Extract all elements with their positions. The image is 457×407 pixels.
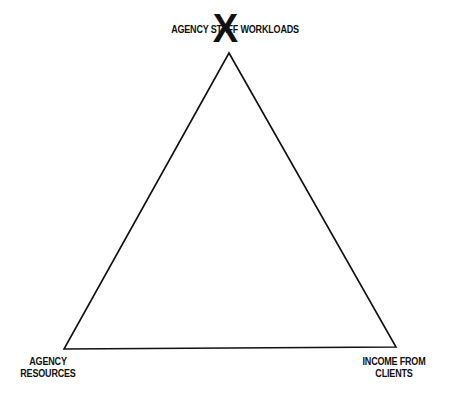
triangle-outline <box>64 53 396 349</box>
triangle-diagram <box>0 0 457 407</box>
label-line: INCOME FROM <box>353 356 436 368</box>
label-line: CLIENTS <box>353 368 436 380</box>
label-line: AGENCY <box>12 356 84 368</box>
label-line: RESOURCES <box>12 368 84 380</box>
x-mark-icon: X <box>213 8 238 48</box>
bottom-right-vertex-label: INCOME FROM CLIENTS <box>353 356 436 380</box>
bottom-left-vertex-label: AGENCY RESOURCES <box>12 356 84 380</box>
